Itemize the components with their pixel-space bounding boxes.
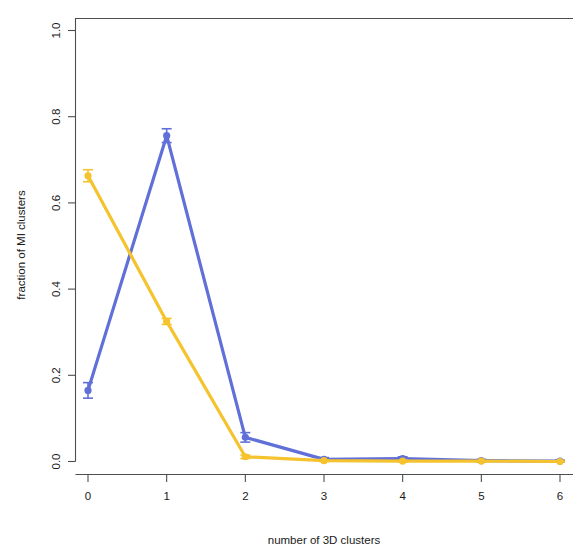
line-chart-svg: 0.0 0.2 0.4 0.6 0.8 1.0 fraction of MI c… — [0, 0, 573, 549]
y-tick-label-3: 0.6 — [50, 195, 62, 211]
y-tick-label-0: 0.0 — [50, 454, 62, 470]
data-point-yellow-series-6 — [556, 458, 563, 465]
x-tick-label-2: 2 — [242, 490, 248, 502]
x-tick-label-6: 6 — [557, 490, 563, 502]
data-point-yellow-series-5 — [478, 457, 485, 464]
data-point-yellow-series-3 — [320, 457, 327, 464]
x-axis-title: number of 3D clusters — [268, 534, 381, 546]
y-tick-label-1: 0.2 — [50, 367, 62, 383]
data-point-blue-series-2 — [242, 434, 249, 441]
data-point-blue-series-1 — [163, 132, 170, 139]
x-tick-label-1: 1 — [163, 490, 169, 502]
y-tick-label-5: 1.0 — [50, 23, 62, 39]
data-point-yellow-series-4 — [399, 457, 406, 464]
y-axis-title: fraction of MI clusters — [15, 190, 27, 300]
data-point-blue-series-0 — [84, 387, 91, 394]
chart-figure: 0.0 0.2 0.4 0.6 0.8 1.0 fraction of MI c… — [0, 0, 573, 549]
x-tick-label-3: 3 — [321, 490, 327, 502]
data-point-yellow-series-0 — [84, 172, 91, 179]
data-point-yellow-series-1 — [163, 318, 170, 325]
y-tick-label-4: 0.8 — [50, 109, 62, 125]
data-point-yellow-series-2 — [242, 453, 249, 460]
x-tick-label-0: 0 — [85, 490, 91, 502]
x-tick-label-5: 5 — [478, 490, 484, 502]
chart-background — [0, 0, 573, 549]
x-tick-label-4: 4 — [399, 490, 406, 502]
y-tick-label-2: 0.4 — [50, 281, 62, 298]
